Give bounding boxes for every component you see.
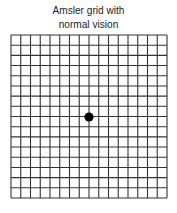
center-fixation-dot bbox=[84, 112, 93, 121]
amsler-grid bbox=[0, 0, 177, 213]
